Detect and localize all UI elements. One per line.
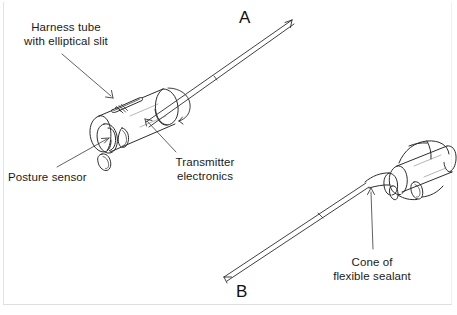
label-posture-sensor-line1: Posture sensor	[8, 170, 108, 184]
elliptical-slit-a	[112, 98, 143, 113]
label-cone-of-sealant: Cone of flexible sealant	[322, 255, 422, 283]
tube-shading-a	[130, 104, 166, 127]
label-transmitter-electronics-line1: Transmitter	[165, 155, 245, 169]
label-cone-of-sealant-line1: Cone of	[322, 255, 422, 269]
view-label-b: B	[236, 282, 247, 302]
view-label-a: A	[239, 8, 250, 28]
antenna-a	[146, 20, 294, 127]
label-transmitter-electronics: Transmitter electronics	[165, 155, 245, 183]
tube-shading-b	[414, 155, 446, 177]
label-harness-tube-line2: with elliptical slit	[12, 34, 120, 48]
label-harness-tube-line1: Harness tube	[12, 20, 120, 34]
leader-lines-b	[368, 188, 375, 249]
label-posture-sensor: Posture sensor	[8, 170, 108, 184]
harness-tube-a	[90, 89, 178, 152]
label-harness-tube: Harness tube with elliptical slit	[12, 20, 120, 48]
harness-tube-b	[389, 141, 456, 200]
label-transmitter-electronics-line2: electronics	[165, 169, 245, 183]
figure-canvas: Harness tube with elliptical slit Postur…	[0, 0, 457, 315]
tube-end-ellipse-a	[98, 154, 111, 171]
label-cone-of-sealant-line2: flexible sealant	[322, 269, 422, 283]
